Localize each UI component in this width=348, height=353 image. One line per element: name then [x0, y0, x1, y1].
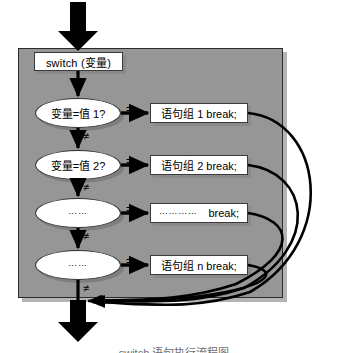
- statement-node-4: 语句组 n break;: [150, 255, 248, 275]
- edge-label-equal-3: =: [126, 204, 132, 215]
- switch-node: switch (变量): [34, 52, 123, 71]
- statement-node-3-dots: …………: [159, 206, 197, 216]
- decision-node-2: 变量=值 2?: [35, 150, 121, 180]
- flowchart-figure: switch (变量) 变量=值 1? 变量=值 2? …… …… 语句组 1 …: [0, 0, 348, 353]
- statement-node-2: 语句组 2 break;: [150, 155, 248, 175]
- exit-arrow: [58, 300, 98, 342]
- statement-node-3: ………… break;: [150, 203, 248, 223]
- decision-node-4: ……: [35, 250, 121, 280]
- edge-label-not-equal-3: ≠: [83, 231, 89, 242]
- entry-arrow: [58, 2, 98, 51]
- decision-node-3-label: ……: [68, 206, 88, 216]
- edge-label-not-equal-2: ≠: [83, 182, 89, 193]
- edge-label-equal-1: =: [126, 104, 132, 115]
- decision-node-3: ……: [35, 198, 121, 228]
- statement-node-1: 语句组 1 break;: [150, 103, 248, 123]
- statement-node-3-label: break;: [208, 207, 239, 219]
- edge-label-equal-2: =: [126, 156, 132, 167]
- decision-node-4-label: ……: [68, 258, 88, 268]
- edge-label-not-equal-1: ≠: [83, 131, 89, 142]
- decision-node-1: 变量=值 1?: [35, 98, 121, 128]
- edge-label-equal-4: =: [126, 256, 132, 267]
- edge-label-not-equal-4: ≠: [83, 283, 89, 294]
- figure-caption: switch 语句执行流程图: [0, 344, 348, 353]
